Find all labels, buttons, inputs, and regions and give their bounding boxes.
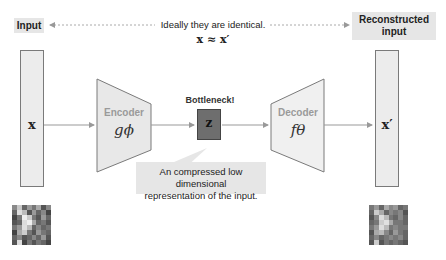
ideal-text: Ideally they are identical. xyxy=(158,19,268,30)
reconstructed-image-thumbnail xyxy=(369,205,408,245)
callout-box: An compressed low dimensional representa… xyxy=(136,162,266,194)
decoder-label: Decoder xyxy=(271,107,325,118)
ideal-math: x ≈ x′ xyxy=(158,33,268,46)
input-image-thumbnail xyxy=(12,205,51,245)
latent-z-symbol: z xyxy=(197,116,221,130)
input-label: Input xyxy=(14,18,44,33)
decoder-symbol: fθ xyxy=(271,121,325,139)
output-vector-symbol: x′ xyxy=(375,117,399,132)
reconstructed-line1: Reconstructed xyxy=(359,14,429,26)
encoder-symbol: gϕ xyxy=(97,121,151,139)
encoder-label: Encoder xyxy=(97,107,151,118)
bottleneck-label: Bottleneck! xyxy=(180,95,240,105)
callout-line2: representation of the input. xyxy=(136,190,266,202)
reconstructed-input-label: Reconstructed input xyxy=(352,12,436,40)
callout-line1: An compressed low dimensional xyxy=(136,166,266,190)
input-vector-symbol: x xyxy=(20,117,44,132)
reconstructed-line2: input xyxy=(382,26,406,38)
